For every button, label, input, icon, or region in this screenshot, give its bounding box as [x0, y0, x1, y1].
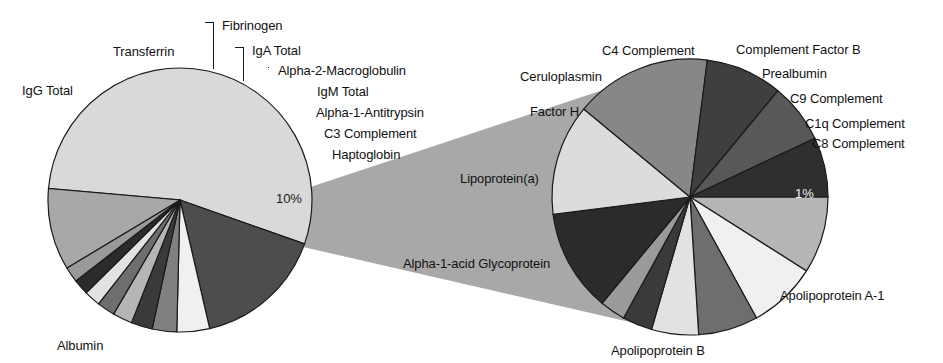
pie-of-pie-figure: IgG Total Transferrin Fibrinogen IgA Tot… — [0, 0, 943, 363]
label-apolipoprotein-a1: Apolipoprotein A-1 — [780, 289, 884, 303]
leader-fibrinogen — [213, 22, 214, 69]
label-ceruloplasmin: Ceruloplasmin — [520, 70, 602, 84]
label-igg-total: IgG Total — [22, 84, 73, 98]
label-albumin: Albumin — [57, 339, 103, 353]
label-c8-complement: C8 Complement — [812, 137, 905, 151]
leader-a2m — [268, 67, 269, 68]
label-main-percent: 10% — [276, 192, 302, 206]
label-c9-complement: C9 Complement — [790, 92, 883, 106]
label-c1q-complement: C1q Complement — [805, 117, 905, 131]
label-complement-factor-b: Complement Factor B — [736, 43, 861, 57]
leader-fibrinogen-tick — [205, 22, 214, 23]
label-c3-complement: C3 Complement — [324, 127, 417, 141]
label-detail-percent: 1% — [795, 187, 814, 201]
label-c4-complement: C4 Complement — [602, 44, 695, 58]
label-igm-total: IgM Total — [317, 85, 369, 99]
label-alpha-2-macroglobulin: Alpha-2-Macroglobulin — [278, 64, 406, 78]
label-iga-total: IgA Total — [252, 44, 301, 58]
label-apolipoprotein-b: Apolipoprotein B — [611, 344, 705, 358]
label-fibrinogen: Fibrinogen — [222, 19, 282, 33]
label-haptoglobin: Haptoglobin — [332, 148, 400, 162]
leader-iga — [243, 47, 244, 81]
label-transferrin: Transferrin — [113, 45, 174, 59]
label-alpha-1-acid-glycoprotein: Alpha-1-acid Glycoprotein — [403, 257, 550, 271]
label-alpha-1-antitrypsin: Alpha-1-Antitrypsin — [316, 106, 424, 120]
label-lipoprotein-a: Lipoprotein(a) — [460, 172, 539, 186]
leader-iga-tick — [235, 47, 244, 48]
label-factor-h: Factor H — [530, 105, 579, 119]
label-prealbumin: Prealbumin — [762, 67, 827, 81]
